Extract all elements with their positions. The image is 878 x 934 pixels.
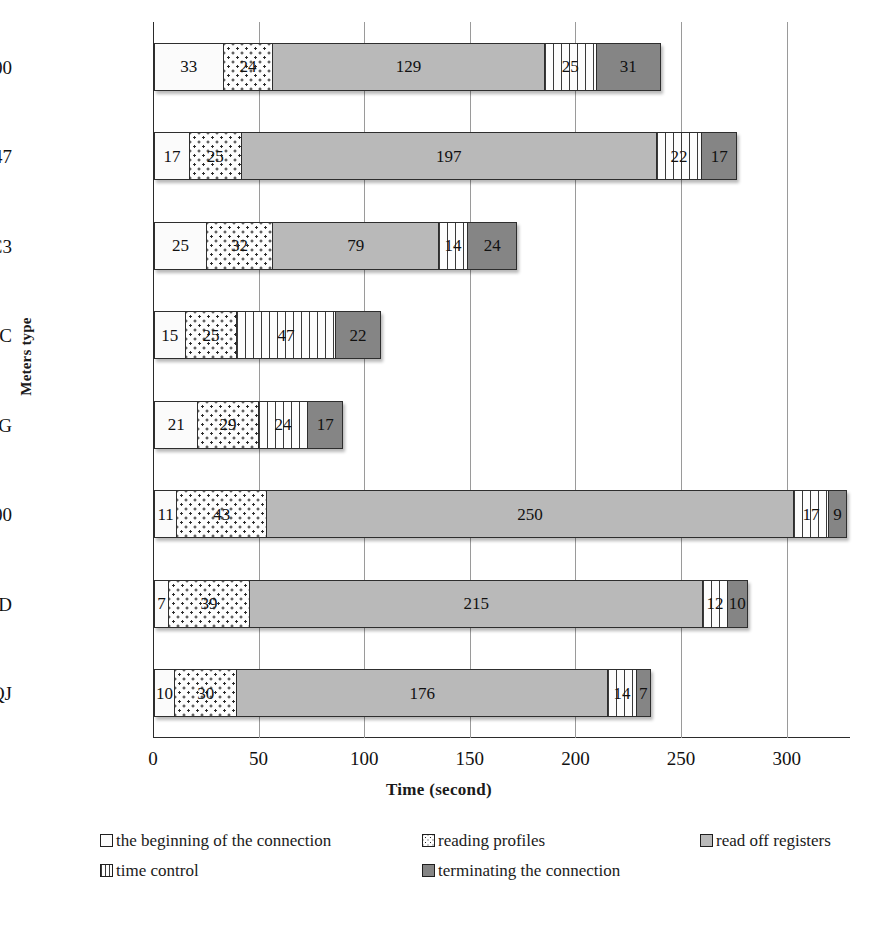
bar-dc3[interactable]: 2532791424 <box>154 222 517 270</box>
bar-zxd[interactable]: 7392151210 <box>154 580 748 628</box>
segment-profiles[interactable]: 32 <box>206 222 274 270</box>
segment-terminate[interactable]: 17 <box>307 401 343 449</box>
legend-item-registers[interactable]: read off registers <box>700 832 831 849</box>
segment-profiles[interactable]: 25 <box>185 311 238 359</box>
segment-timectl[interactable]: 24 <box>258 401 309 449</box>
bar-fbc[interactable]: 15254722 <box>154 311 381 359</box>
segment-registers[interactable]: 129 <box>272 43 544 91</box>
segment-value-label: 129 <box>396 58 422 75</box>
segment-value-label: 17 <box>711 148 728 165</box>
category-label-lzqj: LZQJ <box>0 684 12 703</box>
x-tick-300: 300 <box>757 748 817 770</box>
segment-registers[interactable]: 250 <box>266 490 794 538</box>
segment-value-label: 24 <box>274 416 291 433</box>
segment-timectl[interactable]: 14 <box>607 669 637 717</box>
stacked-bar-chart: Meters type 3324129253117251972217253279… <box>0 0 878 934</box>
segment-terminate[interactable]: 22 <box>335 311 381 359</box>
segment-timectl[interactable]: 14 <box>438 222 468 270</box>
segment-timectl[interactable]: 12 <box>702 580 727 628</box>
bar-sl7000[interactable]: 1143250179 <box>154 490 847 538</box>
y-axis-title: Meters type <box>18 287 35 427</box>
segment-profiles[interactable]: 25 <box>189 132 242 180</box>
segment-value-label: 79 <box>347 237 364 254</box>
segment-value-label: 29 <box>219 416 236 433</box>
segment-value-label: 215 <box>463 595 489 612</box>
x-axis-title: Time (second) <box>0 780 878 800</box>
bar-e700[interactable]: 33241292531 <box>154 43 661 91</box>
legend-item-timectl[interactable]: time control <box>100 862 199 879</box>
legend-swatch-timectl-icon <box>100 864 113 877</box>
segment-value-label: 10 <box>729 595 746 612</box>
segment-value-label: 250 <box>517 506 543 523</box>
segment-value-label: 22 <box>670 148 687 165</box>
legend-swatch-registers-icon <box>700 834 713 847</box>
segment-value-label: 7 <box>639 685 648 702</box>
segment-profiles[interactable]: 24 <box>223 43 274 91</box>
segment-value-label: 176 <box>410 685 436 702</box>
gridline-200 <box>575 22 576 738</box>
legend-item-profiles[interactable]: reading profiles <box>422 832 545 849</box>
segment-timectl[interactable]: 17 <box>793 490 829 538</box>
x-tick-250: 250 <box>651 748 711 770</box>
segment-value-label: 24 <box>484 237 501 254</box>
legend-label: read off registers <box>716 832 831 849</box>
segment-value-label: 17 <box>802 506 819 523</box>
segment-value-label: 17 <box>317 416 334 433</box>
segment-value-label: 24 <box>240 58 257 75</box>
bar-fag[interactable]: 21292417 <box>154 401 343 449</box>
category-label-e700: E700 <box>0 58 12 77</box>
legend: the beginning of the connectionreading p… <box>100 832 860 892</box>
segment-registers[interactable]: 79 <box>272 222 439 270</box>
segment-profiles[interactable]: 43 <box>176 490 267 538</box>
gridline-300 <box>787 22 788 738</box>
segment-value-label: 25 <box>207 148 224 165</box>
segment-value-label: 22 <box>349 327 366 344</box>
bar-ekm647[interactable]: 17251972217 <box>154 132 737 180</box>
gridline-150 <box>470 22 471 738</box>
segment-timectl[interactable]: 47 <box>236 311 335 359</box>
category-label-ekm647: EKM647 <box>0 147 12 166</box>
segment-registers[interactable]: 197 <box>241 132 657 180</box>
segment-begin[interactable]: 10 <box>154 669 175 717</box>
category-label-zxd: ZxD <box>0 595 12 614</box>
segment-profiles[interactable]: 29 <box>197 401 258 449</box>
segment-timectl[interactable]: 22 <box>656 132 702 180</box>
category-label-sl7000: SL7000 <box>0 505 12 524</box>
segment-begin[interactable]: 7 <box>154 580 169 628</box>
segment-begin[interactable]: 33 <box>154 43 224 91</box>
segment-terminate[interactable]: 24 <box>467 222 518 270</box>
segment-value-label: 9 <box>833 506 842 523</box>
segment-value-label: 25 <box>172 237 189 254</box>
legend-item-begin[interactable]: the beginning of the connection <box>100 832 331 849</box>
bar-lzqj[interactable]: 1030176147 <box>154 669 651 717</box>
segment-value-label: 43 <box>213 506 230 523</box>
segment-begin[interactable]: 21 <box>154 401 198 449</box>
gridline-100 <box>364 22 365 738</box>
segment-begin[interactable]: 25 <box>154 222 207 270</box>
segment-begin[interactable]: 15 <box>154 311 186 359</box>
segment-terminate[interactable]: 17 <box>701 132 737 180</box>
y-axis-line <box>153 22 154 738</box>
segment-value-label: 7 <box>157 595 166 612</box>
segment-registers[interactable]: 176 <box>236 669 608 717</box>
gridline-250 <box>681 22 682 738</box>
legend-swatch-begin-icon <box>100 834 113 847</box>
segment-value-label: 32 <box>231 237 248 254</box>
segment-profiles[interactable]: 39 <box>168 580 250 628</box>
segment-timectl[interactable]: 25 <box>544 43 597 91</box>
segment-value-label: 25 <box>562 58 579 75</box>
segment-terminate[interactable]: 31 <box>596 43 661 91</box>
segment-value-label: 21 <box>168 416 185 433</box>
segment-value-label: 30 <box>197 685 214 702</box>
segment-begin[interactable]: 17 <box>154 132 190 180</box>
segment-value-label: 14 <box>445 237 462 254</box>
legend-row-1: the beginning of the connectionreading p… <box>100 832 860 862</box>
legend-item-terminate[interactable]: terminating the connection <box>422 862 620 879</box>
legend-row-2: time controlterminating the connection <box>100 862 860 892</box>
segment-profiles[interactable]: 30 <box>174 669 237 717</box>
segment-begin[interactable]: 11 <box>154 490 177 538</box>
segment-terminate[interactable]: 9 <box>828 490 847 538</box>
segment-registers[interactable]: 215 <box>249 580 703 628</box>
segment-terminate[interactable]: 10 <box>727 580 748 628</box>
segment-terminate[interactable]: 7 <box>636 669 651 717</box>
